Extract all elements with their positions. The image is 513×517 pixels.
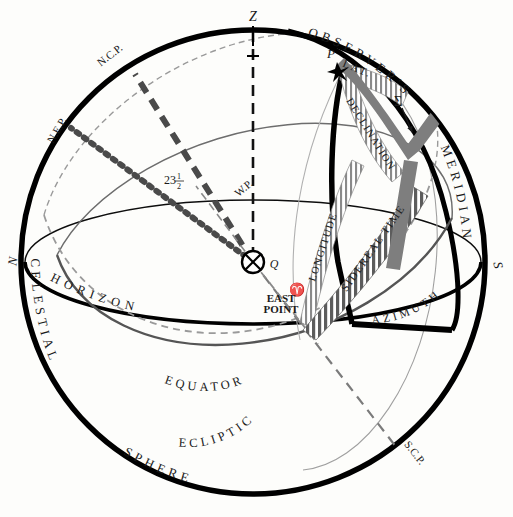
ncp-axis: [135, 74, 253, 262]
obliquity-numerator: 1: [177, 172, 181, 181]
nep-axis: [71, 128, 253, 262]
label-east-point-line2: POINT: [264, 303, 300, 315]
label-scp: S.C.P.: [402, 438, 428, 467]
obliquity-denominator: 2: [177, 182, 181, 191]
label-obliquity: 23 1 2: [164, 172, 184, 191]
azimuth-base-segment: [352, 324, 452, 330]
label-sphere: SPHERE: [121, 444, 194, 487]
label-zenith: Z: [249, 9, 257, 24]
label-equator: EQUATOR: [163, 372, 246, 394]
label-equator-point-q: Q: [270, 257, 279, 271]
label-wp: W.P.: [232, 177, 255, 199]
label-ncp: N.C.P.: [95, 41, 125, 68]
observer-center-symbol: [242, 251, 264, 273]
label-star-sigma: Σ: [394, 94, 402, 109]
label-ecliptic: ECLIPTIC: [178, 411, 257, 450]
celestial-sphere-svg: Z P Σ Q ♈ N S EAST POINT N.C.P. N.E.P. S…: [0, 0, 513, 517]
obliquity-integer: 23: [164, 173, 176, 187]
label-south-point: S: [490, 260, 506, 270]
scp-axis: [253, 262, 400, 452]
celestial-sphere-figure: Z P Σ Q ♈ N S EAST POINT N.C.P. N.E.P. S…: [0, 0, 513, 517]
